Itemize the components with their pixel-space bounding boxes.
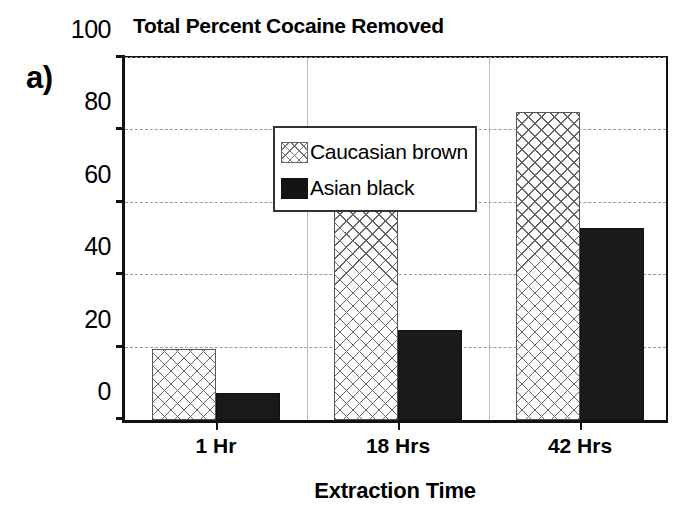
solid-black-swatch-icon <box>281 178 308 199</box>
y-axis-tick <box>116 200 125 203</box>
chart-figure: a) Total Percent Cocaine Removed 0204060… <box>0 0 684 525</box>
y-axis-tick-label: 60 <box>84 159 111 188</box>
legend-item: Asian black <box>281 170 475 206</box>
x-axis-separator <box>307 58 308 420</box>
x-axis-tick <box>216 420 218 430</box>
bar <box>398 330 462 421</box>
legend: Caucasian brown Asian black <box>273 126 477 212</box>
legend-item-label: Asian black <box>310 176 414 200</box>
x-axis-title: Extraction Time <box>122 478 668 504</box>
bar <box>516 112 580 420</box>
chart-title: Total Percent Cocaine Removed <box>133 14 444 38</box>
y-axis-tick-label: 80 <box>84 87 111 116</box>
x-axis-separator <box>489 58 490 420</box>
plot-area: 020406080100 1 Hr18 Hrs42 Hrs Caucasian … <box>122 56 668 423</box>
bar <box>580 228 644 420</box>
y-axis-tick <box>116 417 125 420</box>
y-axis-tick-label: 100 <box>71 15 111 44</box>
y-axis-tick-label: 20 <box>84 304 111 333</box>
crosshatch-swatch-icon <box>281 142 308 163</box>
x-axis-tick <box>398 420 400 430</box>
panel-label: a) <box>26 60 53 96</box>
y-axis-tick <box>116 55 125 58</box>
y-axis-tick-label: 40 <box>84 232 111 261</box>
x-axis-tick-label: 18 Hrs <box>366 434 430 458</box>
y-axis-tick-label: 0 <box>98 377 111 406</box>
x-axis-tick <box>580 420 582 430</box>
legend-item-label: Caucasian brown <box>310 140 468 164</box>
y-axis-tick <box>116 272 125 275</box>
x-axis-tick-label: 42 Hrs <box>548 434 612 458</box>
bar <box>216 393 280 420</box>
x-axis-tick-label: 1 Hr <box>196 434 237 458</box>
y-axis-tick <box>116 127 125 130</box>
bar <box>152 349 216 420</box>
legend-item: Caucasian brown <box>281 134 475 170</box>
gridline <box>125 57 666 58</box>
y-axis-tick <box>116 345 125 348</box>
